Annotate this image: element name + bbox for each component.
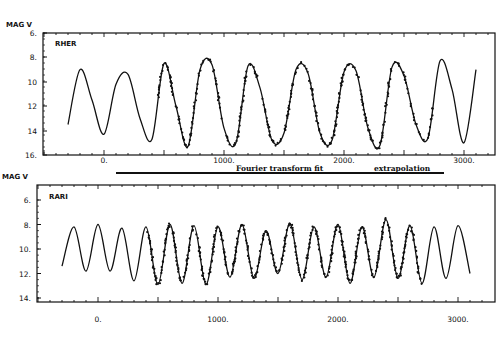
top-y-ticks: 6.8.10121416.: [25, 29, 47, 160]
fit-annotation: Fourier transform fit extrapolation: [116, 164, 444, 173]
bottom-observation-points: [146, 217, 423, 285]
bottom-plot-frame: [37, 185, 495, 302]
svg-text:6.: 6.: [24, 196, 31, 205]
top-plot-frame: [43, 33, 495, 155]
svg-text:3000.: 3000.: [453, 156, 474, 165]
svg-text:2000.: 2000.: [333, 156, 354, 165]
top-x-ticks: 0.1000.2000.3000.: [44, 33, 488, 165]
top-observation-points: [157, 59, 434, 150]
svg-text:1000.: 1000.: [213, 156, 234, 165]
svg-text:3000.: 3000.: [447, 315, 468, 324]
svg-text:0.: 0.: [100, 156, 107, 165]
svg-text:14: 14: [27, 127, 37, 136]
bottom-panel: MAG V RARI 6.8.10.12.14. 0.1000.2000.300…: [2, 173, 495, 324]
svg-text:12.: 12.: [19, 270, 31, 279]
annotation-extrapolation-text: extrapolation: [374, 164, 431, 173]
svg-text:6.: 6.: [30, 29, 37, 38]
svg-text:16.: 16.: [25, 151, 37, 160]
svg-text:2000.: 2000.: [327, 315, 348, 324]
svg-text:1000.: 1000.: [207, 315, 228, 324]
top-y-axis-label: MAG V: [6, 21, 33, 29]
top-panel: MAG V RHER 6.8.10121416. 0.1000.2000.300…: [6, 21, 495, 165]
annotation-fit-text: Fourier transform fit: [236, 164, 324, 173]
top-star-label: RHER: [55, 40, 77, 48]
bottom-y-ticks: 6.8.10.12.14.: [19, 196, 41, 303]
svg-text:0.: 0.: [94, 315, 101, 324]
bottom-star-label: RARI: [49, 193, 68, 201]
svg-text:10.: 10.: [19, 245, 31, 254]
svg-text:8.: 8.: [24, 221, 31, 230]
svg-text:12: 12: [27, 102, 37, 111]
svg-text:10: 10: [27, 78, 37, 87]
light-curve-figure: MAG V RHER 6.8.10121416. 0.1000.2000.300…: [0, 0, 501, 340]
bottom-y-axis-label: MAG V: [2, 173, 29, 181]
svg-text:8.: 8.: [30, 53, 37, 62]
svg-text:14.: 14.: [19, 294, 31, 303]
top-fit-curve: [68, 58, 476, 148]
